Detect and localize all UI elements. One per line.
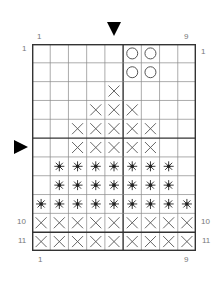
triangle-right-icon xyxy=(14,140,28,154)
star-stitch-icon xyxy=(73,199,83,209)
cross-stitch-icon xyxy=(163,236,174,247)
cross-stitch-icon xyxy=(127,142,138,153)
cross-stitch-icon xyxy=(109,86,120,97)
cross-stitch-icon xyxy=(127,123,138,134)
star-stitch-icon xyxy=(91,199,101,209)
star-stitch-icon xyxy=(54,199,64,209)
star-stitch-icon xyxy=(127,161,137,171)
cross-stitch-icon xyxy=(36,217,47,228)
star-stitch-icon xyxy=(91,161,101,171)
circle-stitch-icon xyxy=(127,48,138,59)
star-stitch-icon xyxy=(109,199,119,209)
circle-stitch-icon xyxy=(127,67,138,78)
star-stitch-icon xyxy=(36,199,46,209)
row-label-left-1: 1 xyxy=(22,45,26,53)
column-label-top-first: 1 xyxy=(37,33,41,41)
cross-stitch-icon xyxy=(109,142,120,153)
star-stitch-icon xyxy=(54,161,64,171)
star-stitch-icon xyxy=(145,161,155,171)
cross-stitch-icon xyxy=(145,123,156,134)
cross-stitch-icon xyxy=(36,236,47,247)
star-stitch-icon xyxy=(109,180,119,190)
cross-stitch-icon xyxy=(163,217,174,228)
cross-stitch-icon xyxy=(109,104,120,115)
star-stitch-icon xyxy=(182,199,192,209)
cross-stitch-icon xyxy=(181,217,192,228)
star-stitch-icon xyxy=(109,161,119,171)
row-label-left-11: 11 xyxy=(18,237,26,245)
star-stitch-icon xyxy=(91,180,101,190)
row-label-left-10: 10 xyxy=(17,218,26,226)
row-label-right-1: 1 xyxy=(201,48,205,56)
cross-stitch-icon xyxy=(72,236,83,247)
cross-stitch-icon xyxy=(54,217,65,228)
cross-stitch-icon xyxy=(90,123,101,134)
cross-stitch-icon xyxy=(72,217,83,228)
cross-stitch-icon xyxy=(72,142,83,153)
star-stitch-icon xyxy=(145,199,155,209)
triangle-down-icon xyxy=(107,22,121,36)
cross-stitch-icon xyxy=(90,236,101,247)
star-stitch-icon xyxy=(127,199,137,209)
cross-stitch-icon xyxy=(54,236,65,247)
cross-stitch-icon xyxy=(127,236,138,247)
cross-stitch-icon xyxy=(181,236,192,247)
column-label-bottom-last: 9 xyxy=(184,256,188,264)
star-stitch-icon xyxy=(73,161,83,171)
row-label-right-10: 10 xyxy=(201,218,210,226)
cross-stitch-icon xyxy=(127,217,138,228)
circle-stitch-icon xyxy=(145,48,156,59)
star-stitch-icon xyxy=(164,180,174,190)
star-stitch-icon xyxy=(145,180,155,190)
cross-stitch-icon xyxy=(145,217,156,228)
star-stitch-icon xyxy=(164,161,174,171)
cross-stitch-icon xyxy=(109,236,120,247)
cross-stitch-icon xyxy=(109,217,120,228)
column-label-top-last: 9 xyxy=(184,33,188,41)
star-stitch-icon xyxy=(73,180,83,190)
star-stitch-icon xyxy=(164,199,174,209)
circle-stitch-icon xyxy=(145,67,156,78)
cross-stitch-icon xyxy=(72,123,83,134)
cross-stitch-icon xyxy=(90,142,101,153)
column-label-bottom-first: 1 xyxy=(38,256,42,264)
cross-stitch-icon xyxy=(90,104,101,115)
row-label-right-11: 11 xyxy=(202,237,210,245)
star-stitch-icon xyxy=(54,180,64,190)
stitch-grid xyxy=(32,44,196,251)
cross-stitch-icon xyxy=(90,217,101,228)
cross-stitch-icon xyxy=(109,123,120,134)
cross-stitch-icon xyxy=(145,142,156,153)
cross-stitch-icon xyxy=(145,236,156,247)
star-stitch-icon xyxy=(127,180,137,190)
cross-stitch-icon xyxy=(127,104,138,115)
